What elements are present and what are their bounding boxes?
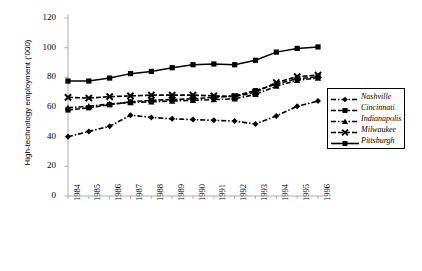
data-point-marker-diamond [86, 128, 92, 134]
legend-marker-cross-icon [330, 124, 360, 135]
legend-label: Cincinnati [360, 103, 395, 112]
data-point-marker-square-filled [128, 71, 133, 76]
data-point-marker-square-filled [295, 46, 300, 51]
legend-item[interactable]: Pittsburgh [330, 135, 401, 146]
data-point-marker-square-filled [86, 78, 91, 83]
data-point-marker-square-filled [211, 61, 216, 66]
data-point-marker-diamond [232, 118, 238, 124]
data-point-marker-diamond [315, 98, 321, 104]
series-cincinnati [65, 74, 320, 113]
legend-marker-square-filled-icon-svg [330, 138, 360, 149]
legend-label: Milwaukee [360, 125, 396, 134]
legend-marker-square-icon [330, 102, 360, 113]
legend-marker-square-filled-icon [330, 135, 360, 146]
line-chart: High-technology employment ('000) 020406… [0, 0, 422, 271]
legend-label: Indianapolis [360, 114, 401, 123]
data-point-marker-diamond [190, 117, 196, 123]
data-point-marker-square-filled [107, 75, 112, 80]
legend-item[interactable]: Cincinnati [330, 102, 401, 113]
series-line [68, 77, 318, 110]
data-point-marker-diamond [169, 116, 175, 122]
series-line [68, 78, 318, 108]
data-point-marker-square-filled [253, 58, 258, 63]
data-point-marker-square-filled [170, 65, 175, 70]
data-point-marker-square-filled [343, 141, 348, 146]
legend-label: Nashville [360, 92, 391, 101]
legend-label: Pittsburgh [360, 136, 394, 145]
data-point-marker-diamond [148, 114, 154, 120]
data-point-marker-square-filled [274, 50, 279, 55]
data-point-marker-diamond [128, 112, 134, 118]
legend-item[interactable]: Milwaukee [330, 124, 401, 135]
data-point-marker-diamond [211, 117, 217, 123]
data-point-marker-square-filled [149, 69, 154, 74]
data-point-marker-diamond [107, 123, 113, 129]
axis-lines [65, 14, 325, 199]
legend-item[interactable]: Indianapolis [330, 113, 401, 124]
data-point-marker-square-filled [190, 62, 195, 67]
legend-item[interactable]: Nashville [330, 91, 401, 102]
data-point-marker-diamond [294, 103, 300, 109]
data-point-marker-square-filled [232, 62, 237, 67]
legend-marker-triangle-icon [330, 113, 360, 124]
data-point-marker-square-filled [315, 44, 320, 49]
data-point-marker-diamond [273, 113, 279, 119]
data-point-marker-diamond [65, 134, 71, 140]
legend-marker-diamond-icon [330, 91, 360, 102]
data-point-marker-diamond [253, 121, 259, 127]
chart-legend: Nashville Cincinnati Indianapolis Milwau… [327, 88, 405, 149]
series-pittsburgh [65, 44, 320, 83]
data-point-marker-square-filled [65, 78, 70, 83]
